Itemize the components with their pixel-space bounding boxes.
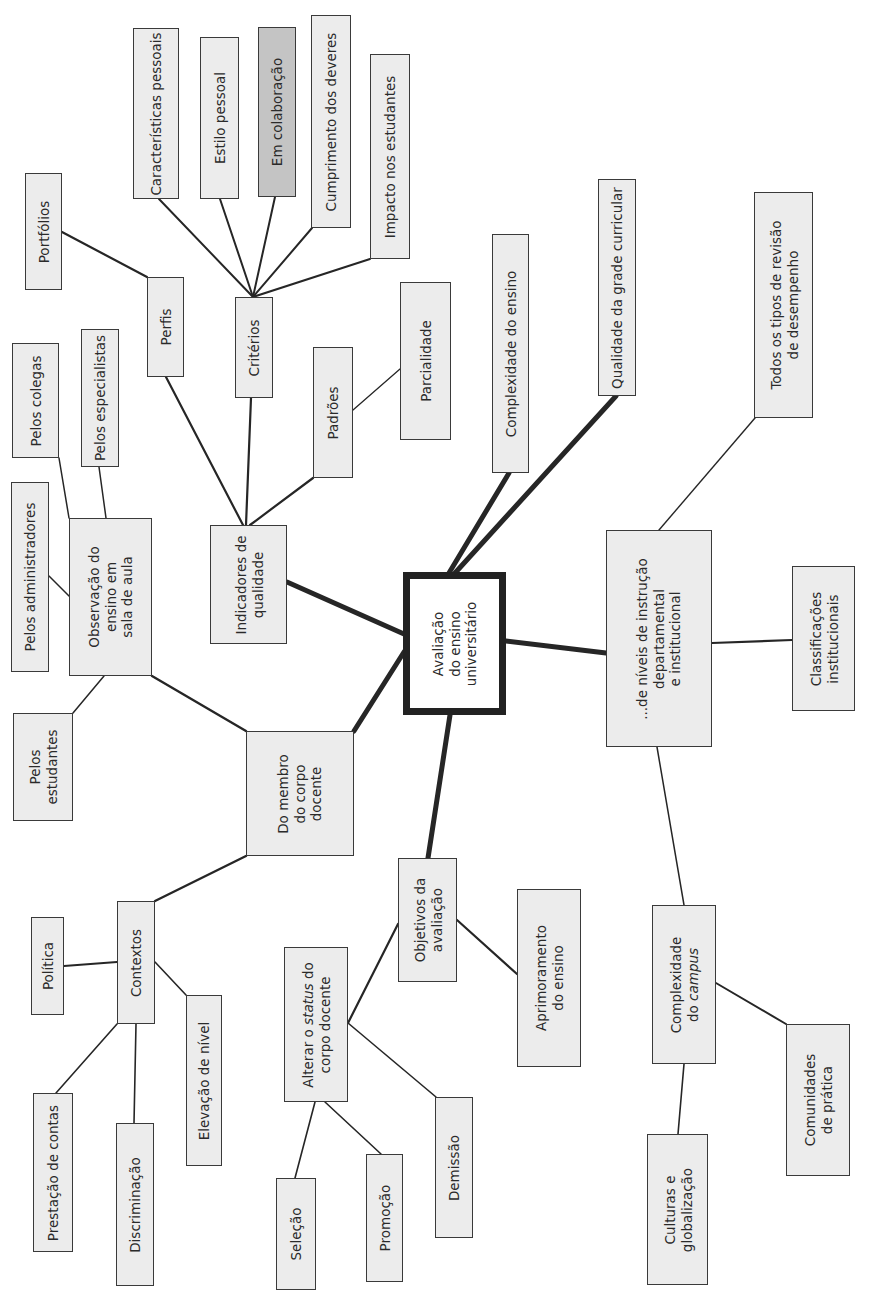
node-caracteristicas-pessoais: Características pessoais [133,28,179,199]
node-label: Contextos [128,928,145,996]
node-label: Impacto nos estudantes [382,75,399,238]
node-complexidade-do-ensino: Complexidade do ensino [492,234,529,473]
node-promocao: Promoção [366,1154,403,1282]
node-label: Pelos administradores [22,503,39,652]
edge-central-membro [354,652,404,731]
edge-contextos-elevacao [155,962,186,995]
node-pelos-especialistas: Pelos especialistas [81,329,119,467]
edge-membro-observacao [152,676,246,731]
node-label: Pelos estudantes [27,729,60,804]
edge-observacao-pelos-estudantes [73,676,104,713]
node-culturas-e-globalizacao: Culturas e globalização [647,1134,708,1285]
node-label: Portfólios [35,200,52,263]
edge-alterar-demissao [348,1023,436,1097]
node-label: Indicadores de qualidade [232,535,265,634]
node-niveis-de-instrucao: ...de níveis de instrução departamental … [606,530,712,747]
node-label: Perfis [157,308,174,345]
node-label: Em colaboração [269,58,286,166]
edge-contextos-prestacao [56,1024,117,1093]
node-label: Observação do ensino em sala de aula [86,546,136,647]
node-label: Características pessoais [148,32,165,195]
node-elevacao-de-nivel: Elevação de nível [186,995,222,1166]
node-label: Padrões [325,386,342,439]
node-perfis: Perfis [147,277,184,377]
node-parcialidade: Parcialidade [400,282,451,440]
node-classificacoes-institucionais: Classificações institucionais [792,566,855,711]
node-label: Comunidades de prática [802,1054,835,1146]
edge-objetivos-alterar [348,924,398,1023]
edge-campus-culturas [678,1064,684,1134]
node-label: Promoção [376,1185,393,1252]
italic-term: status [300,983,316,1024]
node-label: Objetivos da avaliação [411,878,444,963]
node-contextos: Contextos [117,901,155,1024]
node-pelos-estudantes: Pelos estudantes [13,713,73,821]
edge-campus-comunidades [716,983,786,1024]
edge-criterios-colaboracao [253,197,275,297]
node-criterios: Critérios [235,297,273,398]
italic-term: campus [684,947,700,1000]
node-label: Alterar o status do corpo docente [300,962,333,1087]
edge-contextos-politica [64,962,117,966]
edge-perfis-portfolios [62,232,147,277]
node-estilo-pessoal: Estilo pessoal [200,37,239,199]
edge-indicadores-perfis [166,377,243,525]
node-prestacao-de-contas: Prestação de contas [33,1093,73,1252]
edge-central-qualidade-grade [455,396,616,573]
node-pelos-administradores: Pelos administradores [11,482,49,672]
edge-contextos-discriminacao [134,1024,136,1123]
node-label: Demissão [446,1134,463,1200]
node-label: Cumprimento dos deveres [323,32,340,211]
node-selecao: Seleção [276,1178,316,1290]
edge-padroes-parcialidade [353,369,400,410]
edge-observacao-administradores [49,576,69,596]
node-label: Complexidade do campus [668,936,701,1033]
edge-central-objetivos [428,715,450,858]
node-pelos-colegas: Pelos colegas [12,343,59,458]
node-todos-os-tipos-de-revisao: Todos os tipos de revisão de desempenho [754,192,813,418]
node-label: Culturas e globalização [661,1167,694,1251]
node-label: Política [39,942,56,990]
node-label: Discriminação [127,1157,144,1253]
node-label: Aprimoramento do ensino [533,925,566,1031]
node-label: Qualidade da grade curricular [609,187,626,389]
node-objetivos-da-avaliacao: Objetivos da avaliação [398,858,457,982]
node-politica: Política [31,917,64,1015]
edge-niveis-campus [657,747,684,905]
central-node: Avaliação do ensino universitário [403,572,506,715]
node-portfolios: Portfólios [25,173,62,290]
node-observacao-do-ensino: Observação do ensino em sala de aula [69,518,152,676]
node-label: Do membro do corpo docente [275,754,325,834]
edge-alterar-promocao [325,1102,381,1154]
node-label: Elevação de nível [196,1021,213,1140]
node-complexidade-do-campus: Complexidade do campus [652,905,716,1064]
node-label: Complexidade do ensino [502,270,519,437]
edge-indicadores-padroes [250,478,313,525]
node-label: Prestação de contas [45,1104,62,1240]
edge-alterar-selecao [295,1102,315,1178]
edge-observacao-especialistas [99,467,106,518]
edge-central-indicadores [287,582,404,634]
edge-niveis-todos-tipos [659,418,755,530]
node-label: Seleção [288,1208,305,1261]
node-impacto-nos-estudantes: Impacto nos estudantes [370,54,410,259]
edge-objetivos-aprimoramento [457,920,517,974]
edge-criterios-estilo [220,199,253,297]
node-demissao: Demissão [435,1097,473,1238]
node-alterar-o-status: Alterar o status do corpo docente [284,947,348,1102]
node-discriminacao: Discriminação [116,1123,154,1286]
edge-observacao-colegas [59,458,69,518]
edge-indicadores-criterios [246,398,251,525]
central-node-label: Avaliação do ensino universitário [430,601,480,686]
node-qualidade-da-grade-curricular: Qualidade da grade curricular [598,179,636,396]
node-comunidades-de-pratica: Comunidades de prática [786,1024,850,1176]
node-em-colaboracao: Em colaboração [258,27,296,197]
node-label: Critérios [246,319,263,376]
node-aprimoramento-do-ensino: Aprimoramento do ensino [517,889,581,1067]
node-cumprimento-dos-deveres: Cumprimento dos deveres [311,15,351,228]
node-label: Pelos colegas [27,355,44,446]
node-label: Classificações institucionais [807,591,840,686]
node-label: Pelos especialistas [92,335,109,461]
node-label: Estilo pessoal [211,72,228,164]
edge-niveis-classificacoes [712,640,792,643]
